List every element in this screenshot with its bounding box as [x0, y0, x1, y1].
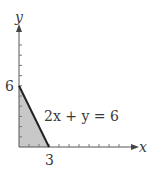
equation-text: 2x + y = 6 — [44, 108, 119, 124]
x-axis-arrow-icon — [131, 144, 139, 150]
y-axis-label: y — [14, 9, 24, 25]
equation-label: 2x + y = 6 — [44, 108, 119, 124]
chart: y x 6 3 2x + y = 6 — [0, 0, 152, 171]
y-tick-label-6: 6 — [5, 78, 14, 94]
plot-area: y x 6 3 2x + y = 6 — [0, 0, 152, 171]
x-axis-label: x — [139, 139, 147, 155]
y-axis-arrow-icon — [16, 24, 22, 32]
x-tick-label-3: 3 — [45, 152, 54, 168]
